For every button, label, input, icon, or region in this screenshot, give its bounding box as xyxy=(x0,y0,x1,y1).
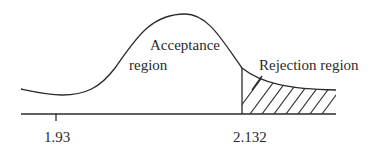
distribution-curve xyxy=(21,14,336,95)
rejection-leader-line xyxy=(252,76,262,90)
tick-label-2-132: 2.132 xyxy=(233,129,267,145)
tick-label-1-93: 1.93 xyxy=(44,129,70,145)
rejection-region-label: Rejection region xyxy=(259,57,359,73)
distribution-diagram: Acceptance region Rejection region 1.93 … xyxy=(0,0,382,153)
acceptance-label-line1: Acceptance xyxy=(150,37,220,53)
acceptance-label-line2: region xyxy=(129,57,168,73)
